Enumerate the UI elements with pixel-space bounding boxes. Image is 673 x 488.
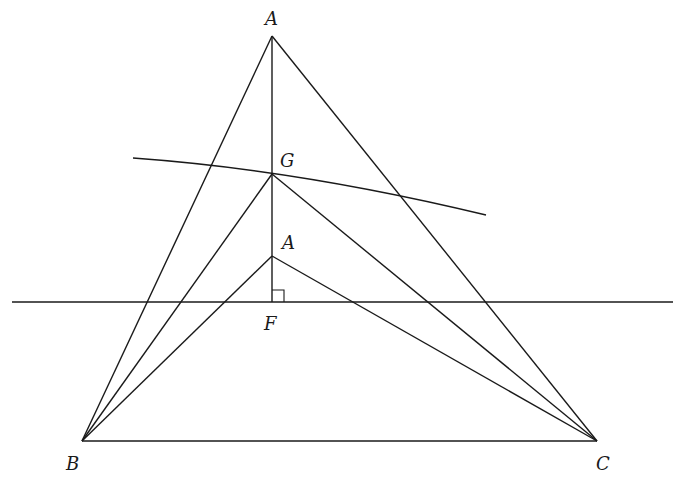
segment-a-b: [82, 36, 272, 441]
segment-a2-c: [272, 256, 597, 441]
segment-a2-b: [82, 256, 272, 441]
right-angle-marker: [272, 290, 284, 302]
geometry-diagram: A G A F B C: [0, 0, 673, 488]
label-g: G: [280, 150, 294, 171]
arc-through-g: [133, 158, 486, 215]
label-a-top: A: [263, 8, 278, 29]
segment-g-b: [82, 174, 272, 441]
label-b: B: [65, 453, 79, 474]
segment-a-c: [272, 36, 597, 441]
label-f: F: [263, 313, 278, 334]
label-a-low: A: [280, 232, 295, 253]
segment-g-c: [272, 174, 597, 441]
label-c: C: [596, 453, 610, 474]
